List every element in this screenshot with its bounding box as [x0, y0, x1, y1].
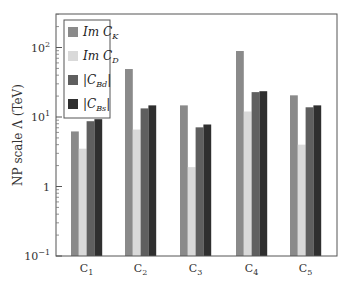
legend-label: Im CK — [82, 25, 119, 41]
legend-swatch — [68, 99, 78, 109]
bar — [79, 149, 87, 256]
y-tick-label: 102 — [31, 40, 50, 55]
bar — [148, 105, 156, 256]
legend-swatch — [68, 27, 78, 37]
x-tick-label: C3 — [189, 262, 203, 277]
legend: Im CKIm CD|CBd||CBs| — [64, 20, 119, 118]
bar — [133, 130, 141, 256]
bar — [236, 51, 244, 256]
bar — [290, 95, 298, 256]
bar — [141, 108, 149, 256]
x-axis: C1C2C3C4C5 — [80, 262, 313, 277]
bar — [94, 119, 102, 256]
legend-label: Im CD — [82, 49, 119, 65]
bar — [252, 92, 260, 256]
bar — [259, 91, 267, 256]
bar — [306, 107, 314, 256]
y-tick-label: 10−1 — [24, 248, 50, 263]
x-tick-label: C5 — [299, 262, 313, 277]
legend-swatch — [68, 51, 78, 61]
bar — [313, 105, 321, 256]
y-tick-label: 1 — [43, 181, 50, 194]
bar — [180, 105, 188, 256]
x-tick-label: C1 — [80, 262, 94, 277]
bar — [87, 121, 95, 256]
legend-swatch — [68, 75, 78, 85]
bar — [196, 127, 204, 256]
bar-chart: 10−11101102 C1C2C3C4C5 NP scale Λ (TeV) … — [0, 0, 349, 284]
bar — [244, 111, 252, 256]
bar — [298, 145, 306, 256]
x-tick-label: C4 — [245, 262, 259, 277]
bar — [71, 131, 79, 256]
x-tick-label: C2 — [134, 262, 148, 277]
y-axis-label: NP scale Λ (TeV) — [11, 84, 25, 186]
bar — [203, 124, 211, 256]
bar — [188, 167, 196, 256]
bar — [125, 69, 133, 256]
y-tick-label: 101 — [31, 109, 50, 124]
